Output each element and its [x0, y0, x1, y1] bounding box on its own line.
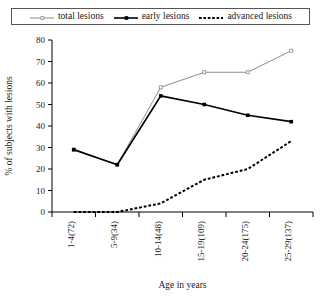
svg-text:40: 40 — [36, 121, 46, 131]
svg-text:60: 60 — [36, 78, 46, 88]
legend-item-total-lesions: total lesions — [29, 8, 104, 26]
data-point-marker — [203, 71, 206, 74]
x-category-labels: 1-4(72)5-9(34)10-14(48)15-19(109)20-24(1… — [66, 221, 294, 262]
svg-text:50: 50 — [36, 100, 46, 110]
data-point-marker — [246, 113, 250, 117]
thin-gray-line-icon — [29, 8, 55, 26]
thick-black-line-square-marker-icon — [113, 8, 139, 26]
data-point-marker — [159, 86, 162, 89]
x-tick-label: 25-29(137) — [283, 221, 293, 262]
data-point-marker — [115, 163, 119, 167]
x-tick-label: 20-24(175) — [240, 221, 250, 262]
x-tick-label: 1-4(72) — [66, 221, 76, 248]
data-point-marker — [159, 94, 163, 98]
x-tick-label: 10-14(48) — [153, 221, 163, 257]
svg-text:70: 70 — [36, 57, 46, 67]
series-line-advanced-lesions — [74, 141, 292, 212]
series-line-early-lesions — [74, 96, 292, 165]
data-point-marker — [72, 148, 76, 152]
svg-text:20: 20 — [36, 164, 46, 174]
chart-figure: total lesions early lesions advanced les… — [0, 0, 321, 299]
x-tick-label: 15-19(109) — [196, 221, 206, 262]
y-axis-title: % of subjects with lesions — [4, 76, 14, 176]
svg-text:30: 30 — [36, 143, 46, 153]
series-line-total-lesions — [74, 51, 292, 165]
svg-text:80: 80 — [36, 35, 46, 45]
chart-legend: total lesions early lesions advanced les… — [11, 8, 310, 25]
legend-label-total-lesions: total lesions — [58, 12, 104, 22]
legend-item-advanced-lesions: advanced lesions — [198, 8, 292, 26]
chart-series-layer — [72, 49, 293, 212]
x-axis-ticks — [52, 212, 313, 217]
svg-text:0: 0 — [41, 207, 46, 217]
y-axis-ticks: 01020304050607080 — [36, 35, 52, 217]
legend-label-early-lesions: early lesions — [142, 12, 190, 22]
x-tick-label: 5-9(34) — [109, 221, 119, 248]
x-axis-title: Age in years — [158, 280, 206, 290]
data-point-marker — [246, 71, 249, 74]
data-point-marker — [289, 120, 293, 124]
data-point-marker — [290, 49, 293, 52]
legend-item-early-lesions: early lesions — [113, 8, 190, 26]
data-point-marker — [202, 103, 206, 107]
chart-plot-area: 01020304050607080 1-4(72)5-9(34)10-14(48… — [0, 26, 321, 299]
dotted-black-line-icon — [198, 8, 224, 26]
svg-text:10: 10 — [36, 186, 46, 196]
legend-label-advanced-lesions: advanced lesions — [227, 12, 292, 22]
